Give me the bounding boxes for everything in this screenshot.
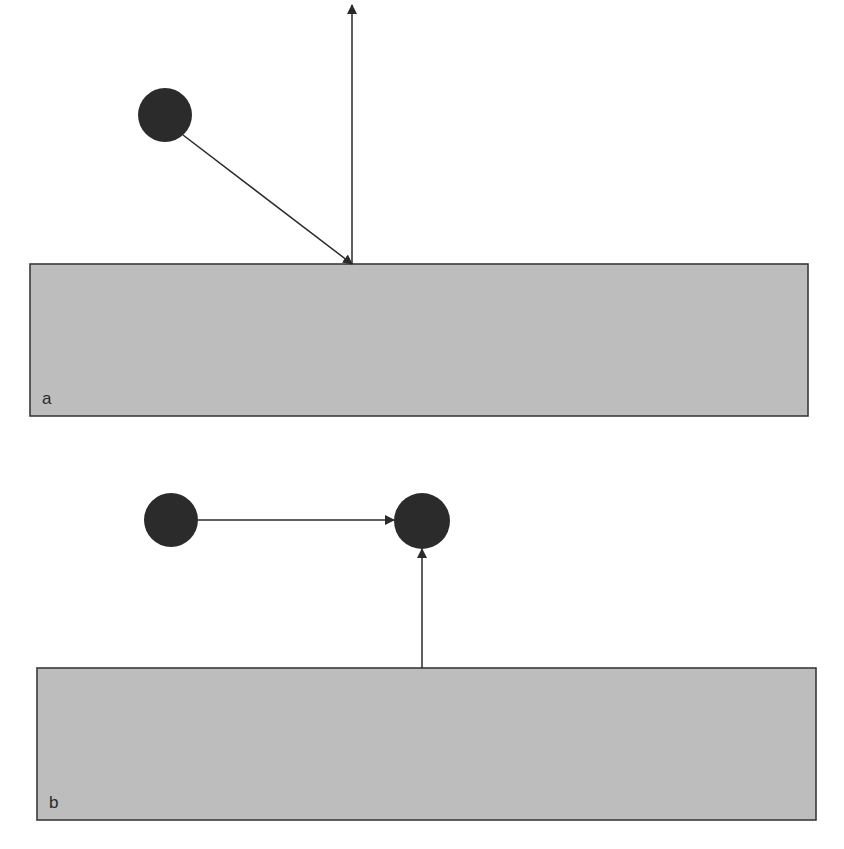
incident-arrow — [183, 135, 352, 264]
incoming-particle-circle — [138, 88, 192, 142]
panel-a — [30, 5, 808, 416]
source-particle-circle — [144, 493, 198, 547]
panels-layer — [30, 5, 816, 820]
surface-rect — [30, 264, 808, 416]
panel-label-a: a — [42, 390, 51, 407]
diagram-canvas — [0, 0, 844, 849]
surface-rect — [37, 668, 816, 820]
panel-b — [37, 493, 816, 820]
panel-label-b: b — [49, 794, 58, 811]
target-particle-circle — [394, 493, 450, 549]
